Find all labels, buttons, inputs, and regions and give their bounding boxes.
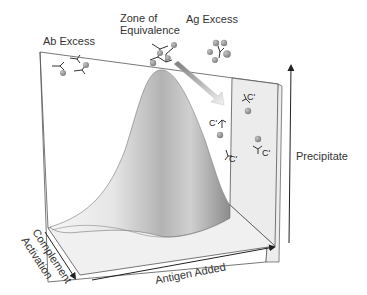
precipitate-axis bbox=[289, 66, 291, 243]
svg-text:C': C' bbox=[229, 154, 237, 164]
ag-excess-label: Ag Excess bbox=[186, 13, 238, 25]
equivalence-label-line1: Zone of bbox=[120, 12, 157, 24]
svg-text:C': C' bbox=[247, 92, 255, 102]
equivalence-label-line2: Equivalence bbox=[120, 24, 180, 36]
precipitin-diagram: C' C' C' C' Antigen Added Complement Act… bbox=[0, 0, 367, 295]
precipitate-label: Precipitate bbox=[296, 150, 348, 162]
equivalence-lattice bbox=[150, 42, 177, 66]
svg-text:C': C' bbox=[262, 148, 270, 158]
svg-text:C': C' bbox=[209, 118, 217, 128]
ag-excess-molecules bbox=[207, 40, 231, 63]
ab-excess-label: Ab Excess bbox=[43, 35, 95, 47]
